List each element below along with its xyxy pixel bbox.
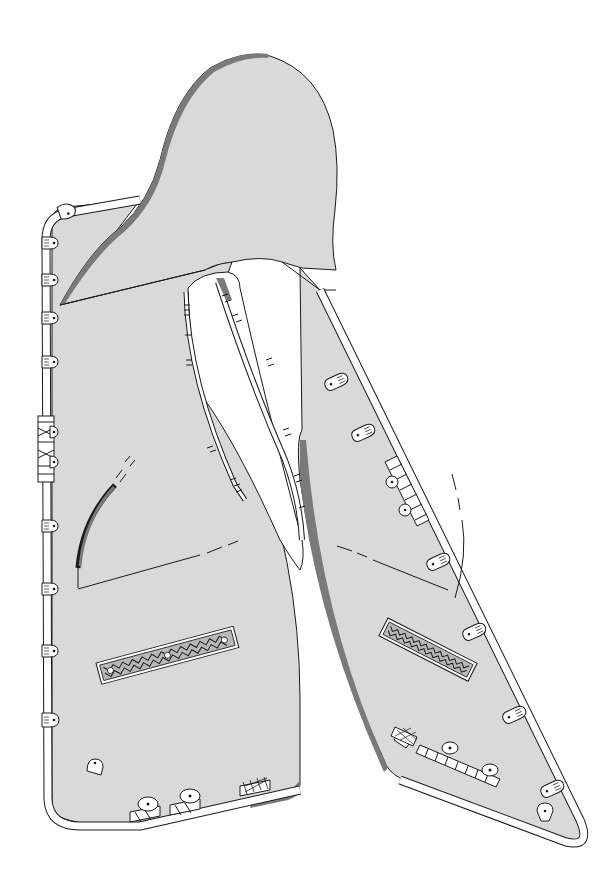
rod-clamp — [42, 520, 58, 532]
saddle-seat — [60, 53, 337, 305]
rod-clamp — [537, 803, 553, 821]
rod-clamp — [42, 583, 58, 595]
illustration-canvas — [0, 0, 616, 885]
rod-clamp — [42, 237, 58, 249]
rod-clamp — [42, 645, 58, 657]
rod-clamp — [399, 504, 411, 516]
saddle-illustration — [0, 0, 616, 885]
rod-clamp — [50, 426, 58, 438]
rod-clamp — [42, 312, 58, 324]
rod-clamp — [42, 274, 58, 286]
rod-clamp — [50, 456, 58, 468]
rod-clamp — [42, 356, 58, 368]
rod-clamp — [42, 713, 59, 727]
rod-clamp — [386, 476, 398, 488]
